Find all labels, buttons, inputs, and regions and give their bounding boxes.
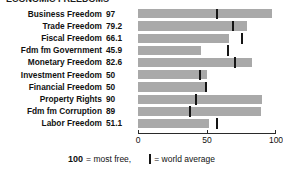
row-value: 51.1: [106, 118, 122, 128]
row-plot: [138, 46, 276, 55]
value-bar: [138, 95, 262, 104]
chart-row: Fdm fm Corruption89: [0, 106, 283, 118]
axis-tick-label: 50: [202, 135, 211, 145]
row-label: Labor Freedom: [42, 118, 102, 128]
chart-row: Labor Freedom51.1: [0, 118, 283, 130]
row-label: Fdm fm Government: [21, 45, 102, 55]
value-bar: [138, 21, 247, 30]
row-plot: [138, 70, 276, 79]
legend-world-average-label: = world average: [154, 154, 215, 165]
world-average-marker: [232, 21, 234, 32]
row-plot: [138, 119, 276, 128]
row-label: Business Freedom: [28, 9, 102, 19]
row-label: Fiscal Freedom: [41, 33, 102, 43]
chart-row: Fdm fm Government45.9: [0, 45, 283, 57]
row-plot: [138, 107, 276, 116]
row-plot: [138, 95, 276, 104]
world-average-marker-icon: [149, 154, 151, 164]
legend-most-free-label: = most free,: [86, 154, 131, 165]
axis-tick: [207, 130, 208, 134]
legend-most-free-number: 100: [68, 154, 83, 165]
axis-tick-label: 0: [136, 135, 141, 145]
value-bar: [138, 70, 207, 79]
world-average-marker: [227, 45, 229, 56]
row-label: Property Rights: [40, 94, 102, 104]
row-value: 90: [106, 94, 115, 104]
world-average-marker: [234, 57, 236, 68]
value-bar: [138, 107, 261, 116]
row-label: Monetary Freedom: [28, 57, 102, 67]
chart-title-cropped: ECONOMIC FREEDOMS: [6, 0, 128, 4]
world-average-marker: [216, 9, 218, 20]
world-average-marker: [205, 82, 207, 93]
row-value: 82.6: [106, 57, 122, 67]
row-label: Financial Freedom: [29, 82, 102, 92]
row-value: 79.2: [106, 21, 122, 31]
legend-world-average: = world average: [149, 154, 215, 165]
chart-title-text: ECONOMIC FREEDOMS: [6, 0, 128, 4]
row-value: 89: [106, 106, 115, 116]
chart-rows: Business Freedom97Trade Freedom79.2Fisca…: [0, 8, 283, 130]
row-plot: [138, 82, 276, 91]
row-value: 45.9: [106, 45, 122, 55]
row-plot: [138, 21, 276, 30]
row-label: Fdm fm Corruption: [27, 106, 102, 116]
value-bar: [138, 9, 272, 18]
axis-tick: [138, 130, 139, 134]
world-average-marker: [241, 33, 243, 44]
world-average-marker: [189, 106, 191, 117]
world-average-marker: [199, 70, 201, 81]
row-plot: [138, 34, 276, 43]
legend-most-free: 100 = most free,: [68, 154, 131, 165]
chart-row: Trade Freedom79.2: [0, 20, 283, 32]
axis-tick-label: 100: [269, 135, 283, 145]
row-value: 50: [106, 70, 115, 80]
row-label: Investment Freedom: [21, 70, 102, 80]
row-plot: [138, 9, 276, 18]
chart-row: Monetary Freedom82.6: [0, 57, 283, 69]
chart-legend: 100 = most free, = world average: [0, 151, 283, 167]
economic-freedom-bar-chart: ECONOMIC FREEDOMS Business Freedom97Trad…: [0, 0, 283, 178]
value-bar: [138, 34, 229, 43]
row-value: 97: [106, 9, 115, 19]
x-axis: 050100: [138, 133, 276, 153]
chart-row: Property Rights90: [0, 93, 283, 105]
row-plot: [138, 58, 276, 67]
chart-row: Investment Freedom50: [0, 69, 283, 81]
world-average-marker: [195, 94, 197, 105]
world-average-marker: [216, 118, 218, 129]
axis-tick: [275, 130, 276, 134]
value-bar: [138, 82, 207, 91]
chart-row: Business Freedom97: [0, 8, 283, 20]
chart-row: Financial Freedom50: [0, 81, 283, 93]
row-label: Trade Freedom: [43, 21, 102, 31]
value-bar: [138, 46, 201, 55]
row-value: 50: [106, 82, 115, 92]
chart-row: Fiscal Freedom66.1: [0, 32, 283, 44]
row-value: 66.1: [106, 33, 122, 43]
value-bar: [138, 119, 209, 128]
